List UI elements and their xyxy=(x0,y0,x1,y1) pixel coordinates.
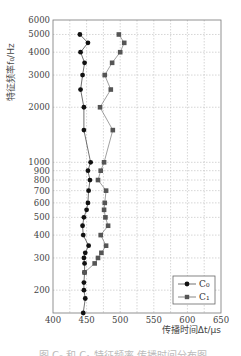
data-point-square-icon xyxy=(122,41,127,46)
data-point-circle-icon xyxy=(81,311,86,316)
legend-square-marker-icon xyxy=(185,295,189,299)
legend-circle-marker-icon xyxy=(185,282,190,287)
y-tick-label: 2000 xyxy=(28,102,50,112)
y-tick-label: 400 xyxy=(34,230,50,240)
y-tick-label: 700 xyxy=(34,186,50,196)
legend: C₀ C₁ xyxy=(173,276,215,304)
data-point-square-icon xyxy=(108,87,113,92)
y-tick-label: 300 xyxy=(34,253,50,263)
data-point-circle-icon xyxy=(84,207,89,212)
y-tick-label: 200 xyxy=(34,285,50,295)
data-point-square-icon xyxy=(103,215,108,220)
x-tick-label: 650 xyxy=(213,315,229,325)
data-point-square-icon xyxy=(117,32,122,37)
y-tick-label: 5000 xyxy=(28,29,50,39)
data-point-circle-icon xyxy=(82,288,87,293)
data-point-square-icon xyxy=(96,178,101,183)
data-point-square-icon xyxy=(102,160,107,165)
y-axis-label: 特征频率f₀/Hz xyxy=(5,43,16,101)
figure-caption: 图 C₀ 和 C₁ 特征频率-传播时间分布图 xyxy=(28,349,218,356)
grid-lines xyxy=(53,20,221,313)
data-point-circle-icon xyxy=(86,243,91,248)
data-point-circle-icon xyxy=(86,200,91,205)
data-point-circle-icon xyxy=(86,168,91,173)
data-point-square-icon xyxy=(110,61,115,66)
y-axis-ticks: 2003004005006007008009001000200030004000… xyxy=(28,15,50,295)
data-point-square-icon xyxy=(111,128,116,133)
data-point-circle-icon xyxy=(82,128,87,133)
x-tick-label: 500 xyxy=(112,315,128,325)
data-point-square-icon xyxy=(104,188,109,193)
data-point-square-icon xyxy=(98,233,103,238)
data-point-circle-icon xyxy=(78,50,83,55)
legend-label-c1: C₁ xyxy=(199,292,210,302)
data-point-square-icon xyxy=(102,208,107,213)
data-point-square-icon xyxy=(99,251,104,256)
data-point-circle-icon xyxy=(81,233,86,238)
data-point-square-icon xyxy=(102,73,107,78)
x-tick-label: 600 xyxy=(179,315,195,325)
data-point-square-icon xyxy=(98,168,103,173)
data-point-square-icon xyxy=(118,50,123,55)
data-point-circle-icon xyxy=(82,60,87,65)
x-tick-label: 550 xyxy=(146,315,162,325)
data-point-circle-icon xyxy=(83,250,88,255)
y-tick-label: 3000 xyxy=(28,70,50,80)
data-point-circle-icon xyxy=(82,261,87,266)
data-point-circle-icon xyxy=(77,32,82,37)
data-point-square-icon xyxy=(104,243,109,248)
x-axis-ticks: 400450500550600650 xyxy=(45,315,229,325)
y-tick-label: 6000 xyxy=(28,15,50,25)
data-point-circle-icon xyxy=(83,296,88,301)
data-point-circle-icon xyxy=(82,280,87,285)
data-point-square-icon xyxy=(102,201,107,206)
data-point-circle-icon xyxy=(86,40,91,45)
x-tick-label: 400 xyxy=(45,315,61,325)
data-point-square-icon xyxy=(98,105,103,110)
data-point-circle-icon xyxy=(82,215,87,220)
x-axis-label: 传播时间Δt/μs xyxy=(162,324,221,335)
data-point-circle-icon xyxy=(88,160,93,165)
x-tick-label: 450 xyxy=(78,315,94,325)
y-tick-label: 4000 xyxy=(28,47,50,57)
data-series xyxy=(77,32,126,315)
data-point-square-icon xyxy=(92,261,97,266)
data-point-circle-icon xyxy=(80,223,85,228)
y-tick-label: 1000 xyxy=(28,157,50,167)
y-tick-label: 800 xyxy=(34,175,50,185)
data-point-circle-icon xyxy=(82,256,87,261)
data-point-square-icon xyxy=(106,223,111,228)
data-point-square-icon xyxy=(96,256,101,261)
data-point-circle-icon xyxy=(80,73,85,78)
data-point-circle-icon xyxy=(88,178,93,183)
data-point-square-icon xyxy=(82,270,87,275)
legend-label-c0: C₀ xyxy=(199,279,210,289)
y-tick-label: 500 xyxy=(34,212,50,222)
data-point-circle-icon xyxy=(82,105,87,110)
data-point-circle-icon xyxy=(78,87,83,92)
data-point-circle-icon xyxy=(86,188,91,193)
chart: 2003004005006007008009001000200030004000… xyxy=(0,0,241,356)
y-tick-label: 600 xyxy=(34,198,50,208)
